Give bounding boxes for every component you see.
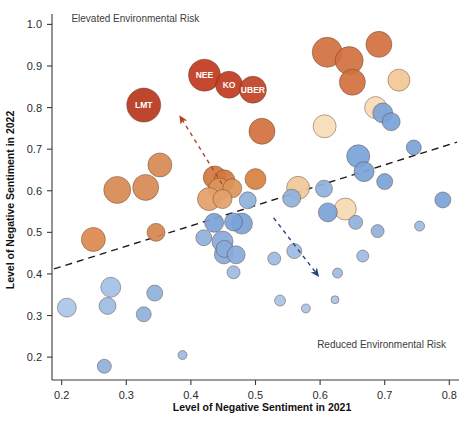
- x-tick-label: 0.6: [312, 389, 327, 401]
- diagonal-trendline: [54, 142, 457, 269]
- data-point[interactable]: [331, 296, 339, 304]
- x-tick-label: 0.2: [54, 389, 69, 401]
- data-point[interactable]: [318, 203, 337, 222]
- data-point[interactable]: [415, 221, 425, 231]
- y-tick-label: 0.3: [27, 310, 42, 322]
- data-point[interactable]: [99, 297, 116, 314]
- data-point[interactable]: [239, 192, 256, 209]
- data-point[interactable]: [406, 140, 421, 155]
- data-point[interactable]: [249, 118, 275, 144]
- data-point[interactable]: [225, 213, 243, 231]
- data-point[interactable]: [101, 277, 121, 297]
- data-point[interactable]: [205, 213, 224, 232]
- y-axis-ticks: 0.20.30.40.50.60.70.80.91.0: [27, 18, 52, 363]
- data-point[interactable]: [213, 190, 232, 209]
- y-tick-label: 0.4: [27, 268, 42, 280]
- data-point[interactable]: [147, 285, 163, 301]
- data-points: LMTNEEKOUBER: [57, 31, 450, 373]
- y-tick-label: 0.2: [27, 351, 42, 363]
- data-point[interactable]: [283, 189, 301, 207]
- data-point[interactable]: [196, 230, 212, 246]
- y-tick-label: 0.6: [27, 185, 42, 197]
- data-point[interactable]: [377, 174, 393, 190]
- data-point[interactable]: [313, 115, 336, 138]
- data-point[interactable]: [104, 176, 131, 203]
- data-point[interactable]: [301, 304, 310, 313]
- data-point[interactable]: [435, 192, 451, 208]
- data-point[interactable]: [57, 298, 76, 317]
- x-tick-label: 0.3: [119, 389, 134, 401]
- data-point-labeled[interactable]: KO: [216, 71, 243, 98]
- downward-risk-arrow: [274, 218, 317, 273]
- data-point[interactable]: [147, 223, 165, 241]
- data-point[interactable]: [382, 113, 400, 131]
- y-tick-label: 0.8: [27, 102, 42, 114]
- data-point[interactable]: [349, 215, 363, 229]
- data-point[interactable]: [133, 174, 159, 200]
- bubble-label: NEE: [196, 70, 214, 80]
- bubble-label: LMT: [135, 100, 153, 110]
- plot-area: 0.20.30.40.50.60.70.80.91.0 0.20.30.40.5…: [0, 0, 468, 424]
- data-point[interactable]: [333, 268, 343, 278]
- data-point[interactable]: [268, 252, 281, 265]
- bubble-label: KO: [223, 80, 236, 90]
- data-point[interactable]: [97, 359, 111, 373]
- data-point[interactable]: [178, 351, 187, 360]
- x-tick-label: 0.4: [183, 389, 198, 401]
- scatter-chart: 0.20.30.40.50.60.70.80.91.0 0.20.30.40.5…: [0, 0, 468, 424]
- data-point[interactable]: [227, 266, 240, 279]
- y-axis-title: Level of Negative Sentiment in 2022: [4, 111, 16, 290]
- data-point[interactable]: [227, 246, 245, 264]
- data-point[interactable]: [148, 153, 172, 177]
- y-tick-label: 0.9: [27, 60, 42, 72]
- x-tick-label: 0.8: [442, 389, 457, 401]
- x-axis-ticks: 0.20.30.40.50.60.70.8: [54, 380, 457, 401]
- elevated-risk-note: Elevated Environmental Risk: [71, 13, 200, 24]
- data-point[interactable]: [136, 307, 151, 322]
- data-point[interactable]: [357, 250, 369, 262]
- x-tick-label: 0.5: [248, 389, 263, 401]
- data-point-labeled[interactable]: LMT: [127, 88, 161, 122]
- x-tick-label: 0.7: [377, 389, 392, 401]
- data-point-labeled[interactable]: UBER: [239, 76, 266, 103]
- y-tick-label: 0.7: [27, 143, 42, 155]
- data-point[interactable]: [371, 225, 384, 238]
- data-point[interactable]: [339, 69, 365, 95]
- bubble-label: UBER: [241, 85, 265, 95]
- upward-risk-arrow: [182, 119, 222, 183]
- data-point[interactable]: [315, 180, 332, 197]
- y-tick-label: 1.0: [27, 18, 42, 30]
- x-axis-title: Level of Negative Sentiment in 2021: [173, 401, 352, 413]
- data-point[interactable]: [81, 227, 105, 251]
- data-point[interactable]: [245, 169, 266, 190]
- data-point[interactable]: [354, 162, 374, 182]
- y-tick-label: 0.5: [27, 226, 42, 238]
- trendline-group: [54, 142, 457, 269]
- data-point[interactable]: [366, 31, 392, 57]
- data-point[interactable]: [275, 295, 286, 306]
- data-point[interactable]: [388, 69, 410, 91]
- reduced-risk-note: Reduced Environmental Risk: [317, 339, 447, 350]
